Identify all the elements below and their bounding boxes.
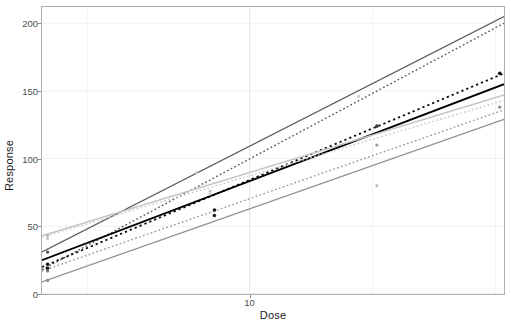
data-point: [46, 269, 49, 272]
y-tick-label: 200: [12, 18, 38, 29]
plot-panel: [41, 6, 505, 295]
series-line: [42, 119, 504, 281]
data-point: [46, 250, 49, 253]
data-point: [498, 106, 501, 109]
series-line: [42, 23, 504, 269]
data-point: [213, 208, 217, 212]
series-line: [42, 100, 504, 237]
y-tick-label: 50: [12, 221, 38, 232]
plot-canvas: [42, 7, 504, 294]
data-point: [46, 262, 50, 266]
gridlines: [42, 7, 504, 294]
x-axis-title: Dose: [41, 309, 505, 321]
data-point: [46, 237, 49, 240]
data-point: [375, 184, 378, 187]
series-line: [42, 73, 504, 267]
data-point: [375, 143, 378, 146]
dose-response-chart: Response 050100150200 10 Dose: [0, 0, 511, 331]
series-lines: [42, 16, 504, 281]
y-tick-label: 150: [12, 85, 38, 96]
data-point: [213, 214, 217, 218]
data-point: [357, 95, 360, 98]
data-point: [498, 72, 502, 76]
x-tick-label: 10: [244, 297, 255, 308]
data-point: [375, 124, 379, 128]
data-point: [46, 279, 49, 282]
data-point: [195, 171, 198, 174]
y-tick-label: 100: [12, 153, 38, 164]
y-tick-label: 0: [12, 289, 38, 300]
series-line: [42, 95, 504, 236]
data-point: [208, 192, 211, 195]
series-line: [42, 84, 504, 260]
y-axis-tick-labels: 050100150200: [9, 0, 38, 331]
x-tick-mark: [250, 295, 251, 298]
